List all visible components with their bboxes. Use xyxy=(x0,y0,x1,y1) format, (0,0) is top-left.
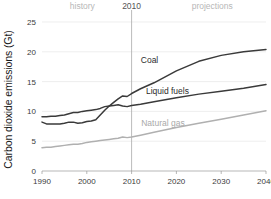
y-tick-label-10: 10 xyxy=(27,107,36,116)
annotation-history: history xyxy=(70,1,96,11)
x-tick-label-2000: 2000 xyxy=(78,177,96,186)
y-tick-label-15: 15 xyxy=(27,78,36,87)
x-axis xyxy=(42,171,266,174)
chart-plot-area: 0510152025 199020002010202020302040 hist… xyxy=(0,0,271,199)
y-tick-label-0: 0 xyxy=(32,167,37,176)
x-tick-label-2030: 2030 xyxy=(212,177,230,186)
y-tick-label-20: 20 xyxy=(27,48,36,57)
period-annotations: history2010projections xyxy=(70,1,233,11)
y-tick-label-25: 25 xyxy=(27,18,36,27)
y-tick-labels: 0510152025 xyxy=(27,18,36,176)
series-line-natural-gas xyxy=(42,111,266,148)
series-label-natural-gas: Natural gas xyxy=(141,118,184,128)
series-labels: CoalLiquid fuelsNatural gas xyxy=(141,55,189,128)
x-tick-label-2020: 2020 xyxy=(168,177,186,186)
x-tick-labels: 199020002010202020302040 xyxy=(33,177,271,186)
x-tick-label-2010: 2010 xyxy=(123,177,141,186)
annotation-divider-year: 2010 xyxy=(122,1,141,11)
series-label-liquid-fuels: Liquid fuels xyxy=(146,86,189,96)
co2-emissions-line-chart: Carbon dioxide emissions (Gt) 0510152025… xyxy=(0,0,271,199)
series-label-coal: Coal xyxy=(141,55,159,65)
annotation-projections: projections xyxy=(192,1,233,11)
x-tick-label-2040: 2040 xyxy=(257,177,271,186)
x-tick-label-1990: 1990 xyxy=(33,177,51,186)
y-tick-label-5: 5 xyxy=(32,137,37,146)
